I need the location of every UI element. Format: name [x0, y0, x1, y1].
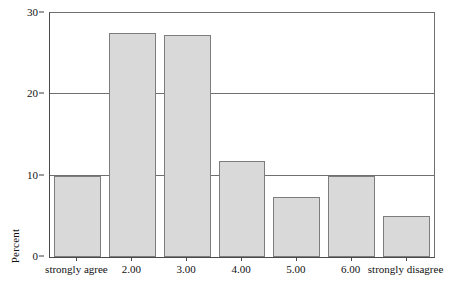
- x-tick-mark: [76, 257, 77, 261]
- y-tick-label: 10: [27, 169, 38, 181]
- y-tick-mark: [39, 174, 44, 175]
- x-tick-mark: [241, 257, 242, 261]
- x-tick-label: strongly agree: [45, 263, 108, 275]
- y-tick-label: 20: [27, 87, 38, 99]
- bar: [54, 176, 101, 257]
- y-tick-mark: [39, 12, 44, 13]
- x-tick-label: 4.00: [231, 263, 250, 275]
- plot-area: [49, 12, 435, 258]
- x-axis: strongly agree2.003.004.005.006.00strong…: [49, 257, 435, 298]
- bar: [164, 35, 211, 257]
- x-tick-mark: [131, 257, 132, 261]
- x-tick-mark: [351, 257, 352, 261]
- y-tick-label: 30: [27, 6, 38, 18]
- bar-series: [50, 13, 434, 257]
- x-tick-mark: [406, 257, 407, 261]
- x-tick-label: 3.00: [177, 263, 196, 275]
- bar: [273, 197, 320, 257]
- y-axis-ticks: 0102030: [0, 0, 44, 298]
- bar: [219, 161, 266, 257]
- histogram-figure: Percent 0102030 strongly agree2.003.004.…: [0, 0, 455, 298]
- y-tick-mark: [39, 256, 44, 257]
- y-tick-mark: [39, 93, 44, 94]
- bar: [328, 176, 375, 257]
- x-tick-label: strongly disagree: [368, 263, 443, 275]
- x-tick-mark: [186, 257, 187, 261]
- bar: [109, 33, 156, 257]
- x-tick-label: 2.00: [122, 263, 141, 275]
- x-tick-label: 6.00: [341, 263, 360, 275]
- bar: [383, 216, 430, 257]
- x-tick-label: 5.00: [286, 263, 305, 275]
- y-tick-label: 0: [33, 250, 39, 262]
- x-tick-mark: [296, 257, 297, 261]
